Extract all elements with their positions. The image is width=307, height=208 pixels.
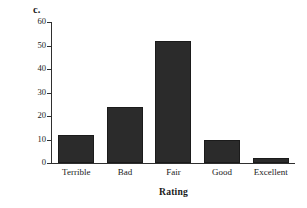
bar bbox=[107, 107, 143, 163]
y-axis-tick-mark bbox=[47, 22, 51, 23]
panel-letter-label: c. bbox=[33, 4, 41, 16]
bar-slot: Fair bbox=[149, 22, 198, 163]
plot-area: 0102030405060 TerribleBadFairGoodExcelle… bbox=[52, 22, 295, 163]
bar-slot: Good bbox=[198, 22, 247, 163]
bar-slot: Terrible bbox=[52, 22, 101, 163]
bar-slot: Excellent bbox=[246, 22, 295, 163]
x-axis-title: Rating bbox=[52, 186, 295, 198]
bar bbox=[58, 135, 94, 163]
y-axis-tick-mark bbox=[47, 116, 51, 117]
bar bbox=[155, 41, 191, 163]
x-axis-line bbox=[51, 163, 295, 164]
y-axis-tick-label: 10 bbox=[24, 134, 46, 145]
y-axis-tick-mark bbox=[47, 46, 51, 47]
bar-slot: Bad bbox=[101, 22, 150, 163]
y-axis-tick-mark bbox=[47, 163, 51, 164]
y-axis-tick-label: 20 bbox=[24, 110, 46, 121]
bar-chart-figure: c. Percent Frequency 0102030405060 Terri… bbox=[0, 0, 307, 208]
bar bbox=[204, 140, 240, 164]
y-axis-tick-label: 0 bbox=[24, 157, 46, 168]
bar bbox=[253, 158, 289, 163]
y-axis-tick-label: 30 bbox=[24, 87, 46, 98]
y-axis-tick-mark bbox=[47, 69, 51, 70]
y-axis-tick-mark bbox=[47, 140, 51, 141]
y-axis-tick-label: 50 bbox=[24, 40, 46, 51]
y-axis-tick-mark bbox=[47, 93, 51, 94]
y-axis-tick-label: 40 bbox=[24, 63, 46, 74]
y-axis-tick-label: 60 bbox=[24, 16, 46, 27]
x-axis-category-label: Excellent bbox=[240, 166, 301, 178]
